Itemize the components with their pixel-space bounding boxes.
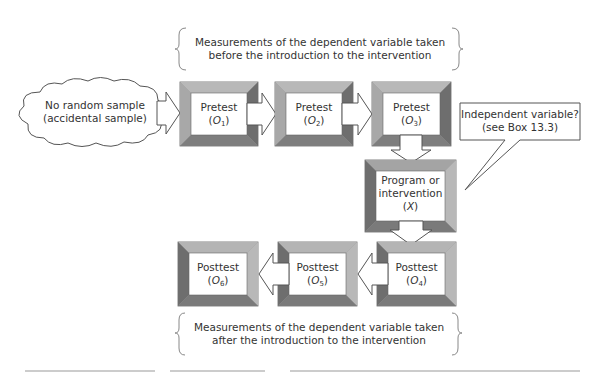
node-o4: Posttest (O4) (388, 261, 445, 291)
node-x-symbol: (X) (376, 200, 445, 213)
callout-text: Independent variable? (see Box 13.3) (460, 108, 580, 134)
node-o3-label: Pretest (383, 101, 440, 114)
node-o5-label: Posttest (289, 261, 346, 274)
node-x: Program or intervention (X) (376, 174, 445, 213)
node-o2-label: Pretest (286, 101, 342, 114)
node-x-label-line1: Program or (376, 174, 445, 187)
node-o4-symbol: (O4) (388, 274, 445, 291)
bottom-brace-line1: Measurements of the dependent variable t… (180, 321, 458, 334)
node-o4-label: Posttest (388, 261, 445, 274)
callout-line1: Independent variable? (460, 108, 580, 121)
top-brace-text: Measurements of the dependent variable t… (180, 36, 460, 62)
node-o5-symbol: (O5) (289, 274, 346, 291)
node-o1-symbol: (O1) (191, 114, 247, 131)
node-o2-symbol: (O2) (286, 114, 342, 131)
cloud-line2: (accidental sample) (30, 112, 160, 125)
top-brace-line2: before the introduction to the intervent… (180, 49, 460, 62)
node-o6: Posttest (O6) (189, 261, 247, 291)
node-o3-symbol: (O3) (383, 114, 440, 131)
bottom-brace-line2: after the introduction to the interventi… (180, 334, 458, 347)
node-x-label-line2: intervention (376, 187, 445, 200)
diagram-canvas: Measurements of the dependent variable t… (0, 0, 604, 379)
bottom-brace-text: Measurements of the dependent variable t… (180, 321, 458, 347)
node-o6-symbol: (O6) (189, 274, 247, 291)
cloud-text: No random sample (accidental sample) (30, 99, 160, 125)
node-o6-label: Posttest (189, 261, 247, 274)
cloud-line1: No random sample (30, 99, 160, 112)
node-o1: Pretest (O1) (191, 101, 247, 131)
node-o2: Pretest (O2) (286, 101, 342, 131)
callout-line2: (see Box 13.3) (460, 121, 580, 134)
node-o1-label: Pretest (191, 101, 247, 114)
node-o3: Pretest (O3) (383, 101, 440, 131)
node-o5: Posttest (O5) (289, 261, 346, 291)
top-brace-line1: Measurements of the dependent variable t… (180, 36, 460, 49)
